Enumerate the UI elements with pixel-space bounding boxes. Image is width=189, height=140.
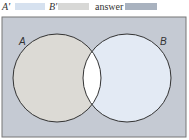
venn-diagram: A B: [0, 0, 189, 140]
set-a-label: A: [18, 36, 26, 47]
set-b-label: B: [160, 36, 167, 47]
